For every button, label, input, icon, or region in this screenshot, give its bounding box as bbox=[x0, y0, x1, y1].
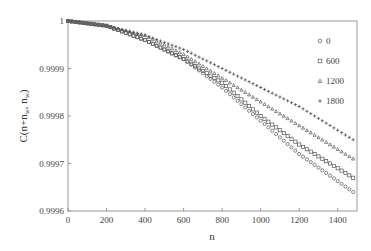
y-tick-label: 0.9998 bbox=[39, 111, 64, 121]
series-600 bbox=[66, 19, 354, 179]
y-axis-title-main: C(n+n bbox=[17, 114, 30, 143]
data-series bbox=[66, 19, 354, 193]
y-tick-label: 0.9997 bbox=[39, 159, 64, 169]
legend-label: 0 bbox=[326, 36, 331, 46]
legend: 060012001800 bbox=[318, 36, 344, 106]
legend-item-1200: 1200 bbox=[318, 76, 344, 86]
legend-label: 600 bbox=[326, 56, 340, 66]
y-tick-label: 0.9996 bbox=[39, 206, 64, 216]
y-axis-title: C(n+nw, nw) bbox=[17, 89, 31, 142]
series-0 bbox=[66, 19, 354, 193]
axis-ticks: 02004006008001000120014000.99960.99970.9… bbox=[39, 16, 347, 225]
x-tick-label: 600 bbox=[177, 215, 191, 225]
x-tick-label: 0 bbox=[66, 215, 71, 225]
y-axis-title-end: ) bbox=[17, 89, 30, 93]
x-tick-label: 800 bbox=[215, 215, 229, 225]
legend-label: 1800 bbox=[326, 96, 345, 106]
x-tick-label: 200 bbox=[100, 215, 114, 225]
x-tick-label: 400 bbox=[138, 215, 152, 225]
x-tick-label: 1000 bbox=[252, 215, 271, 225]
legend-item-600: 600 bbox=[318, 56, 340, 66]
legend-item-1800: 1800 bbox=[318, 96, 344, 106]
legend-item-0: 0 bbox=[318, 36, 331, 46]
y-tick-label: 1 bbox=[60, 16, 65, 26]
legend-label: 1200 bbox=[326, 76, 345, 86]
x-axis-title: n bbox=[209, 230, 215, 242]
chart: 02004006008001000120014000.99960.99970.9… bbox=[0, 0, 371, 251]
series-1200 bbox=[66, 19, 354, 160]
y-tick-label: 0.9999 bbox=[39, 64, 64, 74]
x-tick-label: 1200 bbox=[290, 215, 309, 225]
y-axis-title-mid: , n bbox=[17, 98, 29, 110]
x-tick-label: 1400 bbox=[329, 215, 348, 225]
